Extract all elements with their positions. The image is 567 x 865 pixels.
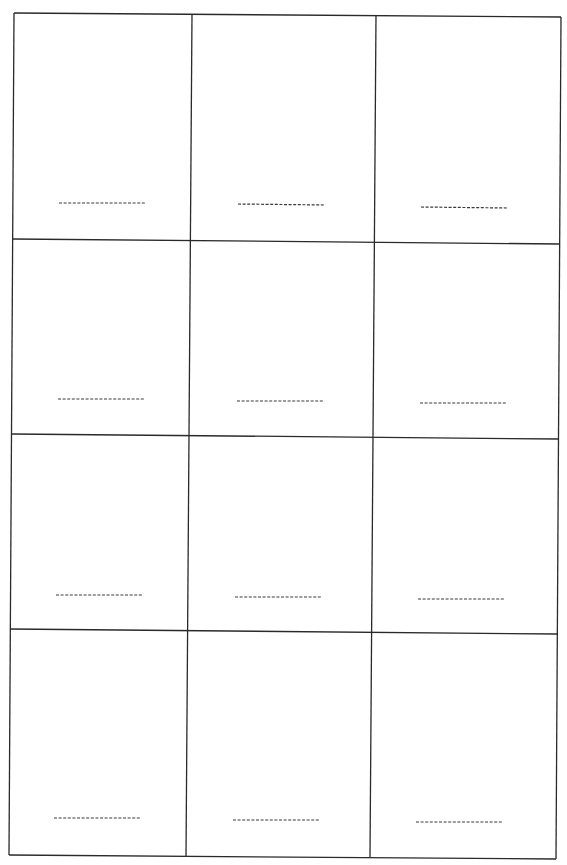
- worksheet-page: [0, 0, 567, 865]
- row-divider-1: [13, 239, 560, 244]
- row-divider-2: [12, 434, 559, 439]
- answer-line-r1c3: [421, 207, 508, 208]
- border-top: [14, 13, 561, 17]
- row-divider-3: [10, 629, 557, 634]
- border-right: [556, 17, 561, 859]
- border-bottom: [9, 855, 556, 859]
- answer-line-r1c2: [238, 204, 325, 205]
- worksheet-grid: [0, 0, 567, 865]
- column-divider-2: [370, 15, 376, 857]
